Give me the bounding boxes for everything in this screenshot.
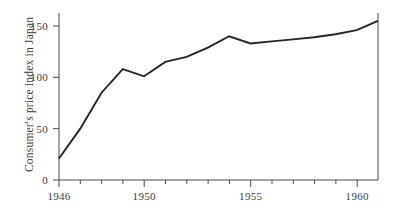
line-chart: Consumer's price index in Japan 0 50 100… bbox=[0, 0, 398, 214]
data-series-line bbox=[59, 21, 378, 159]
y-tick-label-100: 100 bbox=[31, 71, 49, 83]
y-tick-label-150: 150 bbox=[31, 20, 49, 32]
chart-figure: Consumer's price index in Japan 0 50 100… bbox=[0, 0, 398, 214]
x-tick-label-1960: 1960 bbox=[346, 190, 369, 202]
x-tick-label-1946: 1946 bbox=[47, 190, 70, 202]
y-axis-label: Consumer's price index in Japan bbox=[23, 17, 36, 172]
y-tick-label-0: 0 bbox=[42, 174, 48, 186]
y-tick-label-50: 50 bbox=[36, 123, 48, 135]
x-tick-label-1950: 1950 bbox=[133, 190, 156, 202]
x-tick-label-1955: 1955 bbox=[239, 190, 262, 202]
